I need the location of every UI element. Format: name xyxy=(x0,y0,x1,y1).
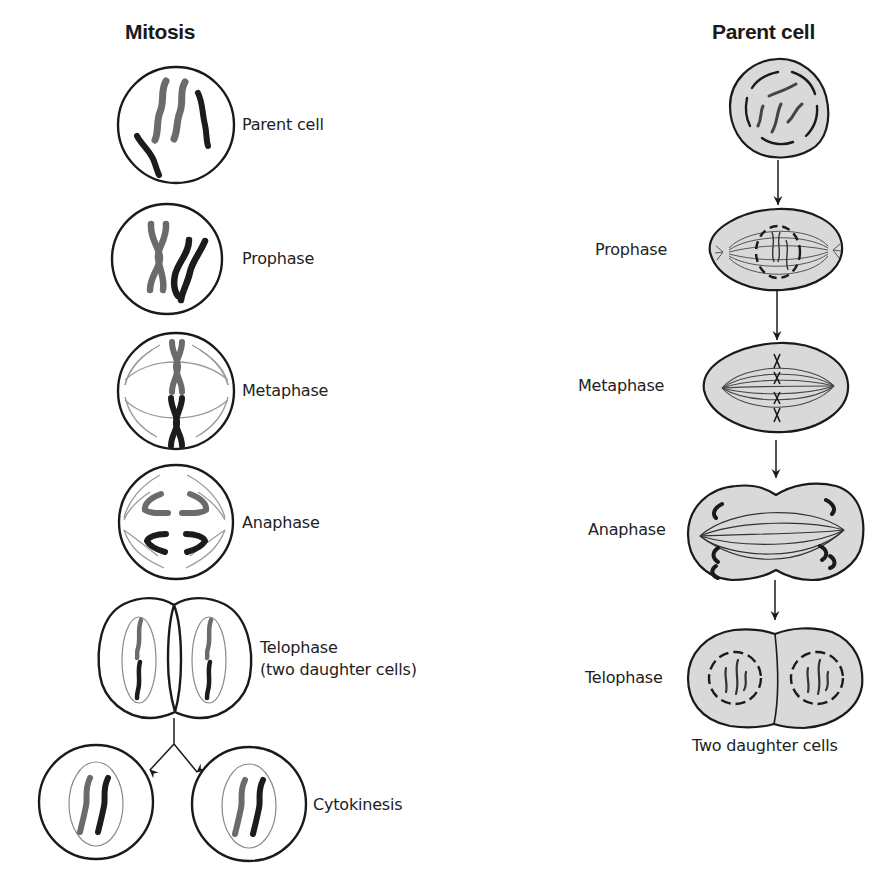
left-cytokinesis-cell-2 xyxy=(192,747,306,861)
diagram-artwork xyxy=(0,0,882,888)
right-metaphase-cell xyxy=(704,343,848,432)
cytokinesis-split-arrows xyxy=(150,718,197,772)
mitosis-diagram: Mitosis Parent cell Parent cell Prophase… xyxy=(0,0,882,888)
right-telophase-cells xyxy=(688,628,862,728)
left-telophase-cells xyxy=(99,598,251,718)
left-prophase-cell xyxy=(112,204,222,314)
right-prophase-cell xyxy=(710,209,842,290)
right-parent-cell xyxy=(730,59,828,158)
right-anaphase-cell xyxy=(688,484,863,580)
left-parent-cell xyxy=(118,67,234,183)
left-anaphase-cell xyxy=(119,465,233,579)
left-cytokinesis-cell-1 xyxy=(39,745,153,859)
left-metaphase-cell xyxy=(118,333,234,449)
